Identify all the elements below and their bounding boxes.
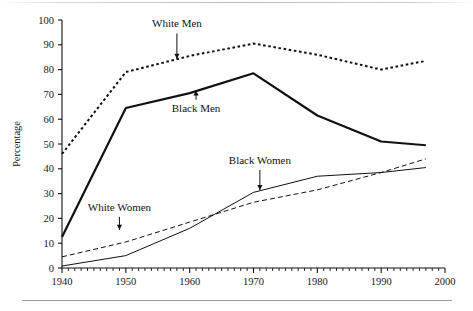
y-tick-label: 10 bbox=[44, 238, 55, 249]
y-tick-label: 90 bbox=[44, 39, 55, 50]
x-tick-label: 1980 bbox=[307, 276, 328, 287]
annotation-black-men-label: Black Men bbox=[172, 102, 221, 114]
y-tick-label: 60 bbox=[44, 114, 55, 125]
y-axis-title: Percentage bbox=[11, 121, 22, 167]
annotation-black-women-label: Black Women bbox=[229, 154, 292, 166]
y-tick-label: 100 bbox=[38, 15, 54, 26]
x-tick-label: 1990 bbox=[371, 276, 392, 287]
y-tick-label: 20 bbox=[44, 213, 55, 224]
x-tick-label: 2000 bbox=[435, 276, 456, 287]
x-tick-label: 1940 bbox=[52, 276, 73, 287]
x-tick-label: 1970 bbox=[243, 276, 264, 287]
x-tick-label: 1950 bbox=[115, 276, 136, 287]
annotation-white-women-arrow-head bbox=[117, 225, 122, 230]
y-tick-label: 70 bbox=[44, 89, 55, 100]
annotation-black-women-arrow-head bbox=[257, 185, 262, 190]
y-tick-label: 30 bbox=[44, 188, 55, 199]
y-tick-label: 40 bbox=[44, 163, 55, 174]
figure-container: 0102030405060708090100194019501960197019… bbox=[0, 0, 473, 311]
x-tick-label: 1960 bbox=[179, 276, 200, 287]
annotation-white-women-label: White Women bbox=[88, 201, 152, 213]
annotation-white-men-label: White Men bbox=[152, 17, 202, 29]
y-tick-label: 0 bbox=[49, 263, 54, 274]
line-chart: 0102030405060708090100194019501960197019… bbox=[0, 0, 473, 311]
axis-layer: 0102030405060708090100194019501960197019… bbox=[11, 15, 456, 287]
y-tick-label: 50 bbox=[44, 139, 55, 150]
series-line-black-women bbox=[62, 168, 426, 266]
y-tick-label: 80 bbox=[44, 64, 55, 75]
